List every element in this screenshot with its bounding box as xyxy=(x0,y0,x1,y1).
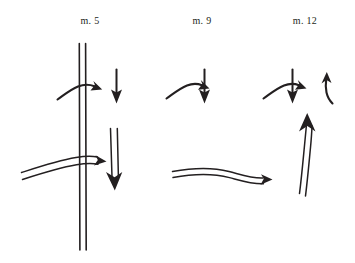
curved-arrow-right-lower-icon xyxy=(173,168,273,184)
curved-arrow-right-upper-icon xyxy=(264,80,307,98)
hook-arrow-up-icon xyxy=(322,72,333,104)
gesture-diagram: m. 5 m. 9 m. 12 xyxy=(0,0,355,263)
measure-label-m9: m. 9 xyxy=(182,15,222,26)
measure-label-m12: m. 12 xyxy=(285,15,325,26)
down-arrow-lower-icon xyxy=(106,129,122,191)
down-arrow-upper-icon xyxy=(287,70,298,104)
diagram-canvas xyxy=(0,0,355,263)
group-m9 xyxy=(167,70,273,185)
curved-arrow-right-lower-icon xyxy=(22,155,107,179)
group-m5 xyxy=(22,44,123,251)
up-arrow-lower-icon xyxy=(299,113,316,196)
down-arrow-upper-icon xyxy=(111,70,122,104)
measure-label-m5: m. 5 xyxy=(70,15,110,26)
group-m12 xyxy=(264,70,333,197)
barline-double-vertical-icon xyxy=(79,44,86,251)
